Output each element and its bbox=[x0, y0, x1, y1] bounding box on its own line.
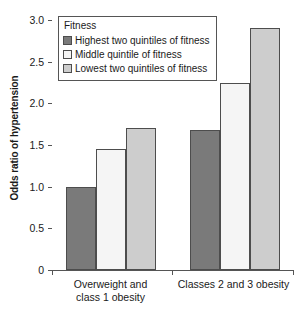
y-axis-tick-label: 2.0 bbox=[18, 97, 44, 109]
x-axis-left-tick bbox=[52, 270, 53, 275]
x-axis-category-label-1: Classes 2 and 3 obesity bbox=[173, 278, 294, 291]
bar bbox=[220, 83, 250, 271]
legend-entry-label: Lowest two quintiles of fitness bbox=[75, 63, 207, 75]
x-axis-group-separator bbox=[172, 270, 173, 275]
bar bbox=[96, 149, 126, 270]
y-axis-tick-label: 1.5 bbox=[18, 139, 44, 151]
y-axis-tick-labels: 00.51.01.52.02.53.0 bbox=[18, 0, 44, 323]
legend-entries: Highest two quintiles of fitnessMiddle q… bbox=[63, 34, 212, 75]
legend-entry: Highest two quintiles of fitness bbox=[63, 34, 212, 47]
bar-chart-figure: Odds ratio of hypertension 00.51.01.52.0… bbox=[0, 0, 298, 323]
y-axis-tick-label: 0.5 bbox=[18, 222, 44, 234]
legend: Fitness Highest two quintiles of fitness… bbox=[58, 16, 217, 81]
bar bbox=[126, 128, 156, 270]
legend-entry-label: Highest two quintiles of fitness bbox=[75, 35, 210, 47]
bar bbox=[250, 28, 280, 270]
x-axis-category-label-0: Overweight and class 1 obesity bbox=[48, 278, 173, 304]
bar bbox=[66, 187, 96, 270]
x-axis-line bbox=[52, 270, 294, 271]
y-axis-tick-label: 1.0 bbox=[18, 181, 44, 193]
legend-entry: Lowest two quintiles of fitness bbox=[63, 62, 212, 75]
legend-entry-label: Middle quintile of fitness bbox=[75, 49, 182, 61]
x-axis-right-tick bbox=[293, 270, 294, 275]
legend-entry: Middle quintile of fitness bbox=[63, 48, 212, 61]
y-axis-tick-label: 0 bbox=[18, 264, 44, 276]
y-axis-tick-label: 3.0 bbox=[18, 14, 44, 26]
legend-swatch-icon bbox=[63, 50, 72, 59]
bar bbox=[190, 130, 220, 270]
y-axis-tick-label: 2.5 bbox=[18, 56, 44, 68]
legend-title: Fitness bbox=[64, 20, 212, 32]
legend-swatch-icon bbox=[63, 36, 72, 45]
legend-swatch-icon bbox=[63, 64, 72, 73]
